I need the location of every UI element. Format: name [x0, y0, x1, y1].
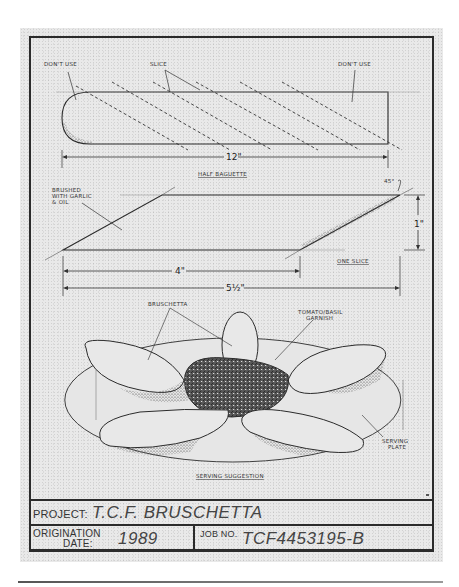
title-block: PROJECT: T.C.F. BRUSCHETTA ORIGINATION D…: [30, 499, 433, 551]
bruschetta-label: BRUSCHETTA: [148, 301, 188, 307]
origination-value: 1989: [118, 529, 158, 549]
title-block-divider: [193, 526, 195, 551]
garnish-label-line2: GARNISH: [306, 315, 333, 321]
slice-label: SLICE: [150, 61, 167, 67]
serving-suggestion-caption: SERVING SUGGESTION: [196, 473, 264, 479]
project-value: T.C.F. BRUSCHETTA: [92, 503, 263, 523]
dont-use-right-label: DON'T USE: [338, 61, 371, 67]
dont-use-left-label: DON'T USE: [44, 61, 77, 67]
corner-mark: [426, 494, 429, 496]
half-baguette-caption: HALF BAGUETTE: [198, 171, 247, 177]
angle-label: 45°: [384, 178, 395, 184]
job-number-label: JOB NO.: [200, 529, 237, 539]
long-dimension: 5½": [226, 283, 245, 293]
project-row: PROJECT: T.C.F. BRUSCHETTA: [30, 499, 433, 526]
one-slice-caption: ONE SLICE: [337, 258, 369, 264]
job-number-value: TCF4453195-B: [242, 529, 364, 549]
height-dimension: 1": [414, 219, 424, 229]
bottom-rule: [18, 581, 443, 583]
origination-row: ORIGINATION DATE: 1989 JOB NO. TCF445319…: [30, 524, 433, 551]
half-baguette-view: DON'T USE SLICE DON'T USE 12" HALF BAGUE…: [44, 61, 420, 177]
short-dimension: 4": [175, 266, 185, 276]
one-slice-view: BRUSHED WITH GARLIC & OIL 45° 1" 4" 5½" …: [45, 178, 425, 296]
brushed-note-line3: & OIL: [52, 199, 69, 205]
serving-suggestion-view: [65, 308, 403, 462]
plate-label-line2: PLATE: [388, 444, 406, 450]
project-label: PROJECT:: [33, 508, 88, 520]
length-dimension: 12": [226, 152, 242, 162]
date-label: DATE:: [63, 538, 93, 549]
